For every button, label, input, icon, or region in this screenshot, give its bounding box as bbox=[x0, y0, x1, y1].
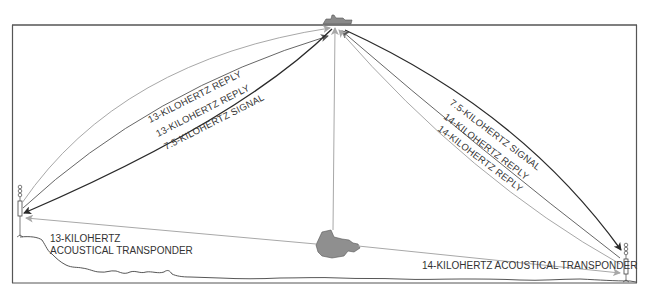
submersible-icon bbox=[316, 230, 360, 258]
left-transponder-icon bbox=[17, 185, 23, 237]
left-transponder-caption-line2: ACOUSTICAL TRANSPONDER bbox=[50, 245, 193, 256]
right-transponder-caption: 14-KILOHERTZ ACOUSTICAL TRANSPONDER bbox=[422, 260, 637, 271]
acoustic-diagram: 13-KILOHERTZ REPLY 13-KILOHERTZ REPLY 7.… bbox=[0, 0, 647, 290]
surface-ship-icon bbox=[323, 15, 352, 24]
submersible-to-ship bbox=[333, 28, 335, 230]
left-reply-outer bbox=[22, 28, 330, 203]
left-transponder-caption-line1: 13-KILOHERTZ bbox=[50, 233, 120, 244]
